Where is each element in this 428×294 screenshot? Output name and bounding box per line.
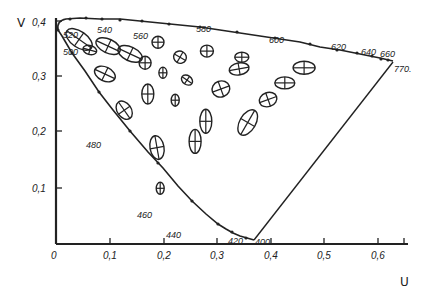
y-axis-name: V xyxy=(17,16,26,30)
wl-label-420: 420 xyxy=(228,236,243,246)
ellipse-marker xyxy=(139,56,151,69)
wl-label-520: 520 xyxy=(63,30,78,40)
x-tick-label: 0,6 xyxy=(371,250,385,261)
ellipse-marker xyxy=(234,106,262,138)
wl-label-600: 600 xyxy=(269,35,284,45)
wl-label-480: 480 xyxy=(86,140,101,150)
axes xyxy=(56,18,408,244)
wl-label-560: 560 xyxy=(133,31,148,41)
ellipse-marker xyxy=(171,49,188,66)
x-axis-name: U xyxy=(400,275,409,289)
ellipse-marker xyxy=(92,63,118,85)
y-tick-label: 0,3 xyxy=(32,71,46,82)
ellipse-marker xyxy=(293,61,315,74)
origin-label: 0 xyxy=(51,250,57,261)
ellipse-marker xyxy=(156,182,164,194)
ellipse-marker xyxy=(148,135,166,161)
wl-label-580: 580 xyxy=(196,24,211,34)
y-tick-label: 0,2 xyxy=(32,126,46,137)
x-tick-label: 0,1 xyxy=(103,250,117,261)
ellipse-marker xyxy=(228,61,250,76)
wl-label-640: 640 xyxy=(361,47,376,57)
x-tick-label: 0,4 xyxy=(264,250,278,261)
purple-line xyxy=(254,62,393,240)
wl-label-660: 660 xyxy=(380,49,395,59)
wl-label-620: 620 xyxy=(331,42,346,52)
ellipse-marker xyxy=(200,109,212,133)
ellipse-marker xyxy=(275,77,295,89)
ellipse-marker xyxy=(189,129,201,153)
ellipse-marker xyxy=(115,42,144,66)
wl-label-540: 540 xyxy=(97,25,112,35)
ellipse-marker xyxy=(152,36,164,48)
discrimination-ellipses xyxy=(62,24,315,194)
y-tick-label: 0,4 xyxy=(32,17,46,28)
ellipse-marker xyxy=(235,52,249,62)
ellipse-marker xyxy=(93,34,122,58)
ellipse-marker xyxy=(113,98,136,122)
x-tick-label: 0,5 xyxy=(317,250,331,261)
ellipse-marker xyxy=(142,84,154,104)
ellipse-marker xyxy=(257,90,279,109)
wl-label-400: 400 xyxy=(255,237,270,247)
wl-label-440: 440 xyxy=(166,230,181,240)
wl-label-770: 770. xyxy=(394,64,412,74)
ellipse-marker xyxy=(159,67,167,78)
wl-label-460: 460 xyxy=(137,210,152,220)
ellipse-marker xyxy=(180,73,195,87)
ellipse-marker xyxy=(200,45,213,57)
ellipse-marker xyxy=(171,94,179,106)
y-tick-label: 0,1 xyxy=(32,183,46,194)
chromaticity-chart: V U 0,4 0,3 0,2 0,1 0 0,1 0,2 0,3 0,4 0,… xyxy=(0,0,428,294)
x-tick-label: 0,2 xyxy=(157,250,171,261)
x-tick-label: 0,3 xyxy=(210,250,224,261)
ellipse-marker xyxy=(210,78,232,99)
wl-label-500: 500 xyxy=(63,47,78,57)
